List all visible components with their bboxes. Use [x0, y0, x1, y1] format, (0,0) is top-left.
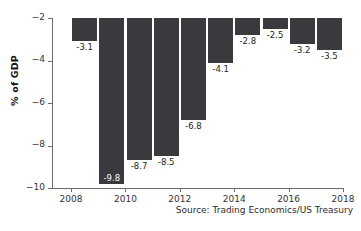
x-tick-label: 2014 — [223, 194, 246, 204]
y-tick: −2 — [48, 18, 52, 19]
bar — [127, 18, 152, 160]
x-tick — [180, 188, 181, 192]
x-tick — [125, 188, 126, 192]
y-tick: −10 — [48, 188, 52, 189]
x-tick — [71, 188, 72, 192]
bar-value-label: -4.1 — [212, 64, 229, 74]
x-tick — [234, 188, 235, 192]
y-axis-spine — [52, 18, 53, 188]
y-tick-label: −4 — [32, 54, 45, 64]
bar-value-label: -8.7 — [131, 161, 148, 171]
bar — [99, 18, 124, 184]
y-axis-title: % of GDP — [9, 41, 20, 121]
plot-area: −2−4−6−8−10 200820102012201420162018 -3.… — [52, 18, 343, 188]
bar-value-label: -3.2 — [294, 45, 311, 55]
x-tick — [343, 188, 344, 192]
y-tick-label: −6 — [32, 97, 45, 107]
bar-value-label: -8.5 — [158, 157, 175, 167]
bar-value-label: -9.8 — [104, 173, 121, 183]
bar-value-label: -3.5 — [321, 51, 338, 61]
y-tick: −8 — [48, 146, 52, 147]
x-tick-label: 2018 — [332, 194, 355, 204]
x-tick-label: 2012 — [168, 194, 191, 204]
bar — [317, 18, 342, 50]
bar — [208, 18, 233, 63]
bar — [181, 18, 206, 120]
x-tick-label: 2016 — [277, 194, 300, 204]
bar — [72, 18, 97, 41]
x-axis-spine — [52, 188, 343, 189]
y-tick: −4 — [48, 61, 52, 62]
bar-value-label: -2.5 — [267, 30, 284, 40]
bar-value-label: -6.8 — [185, 121, 202, 131]
bar-value-label: -2.8 — [240, 36, 257, 46]
y-tick: −6 — [48, 103, 52, 104]
bar — [235, 18, 260, 35]
x-tick — [289, 188, 290, 192]
y-tick-label: −8 — [32, 139, 45, 149]
bar-value-label: -3.1 — [76, 42, 93, 52]
bar — [263, 18, 288, 29]
y-tick-label: −2 — [32, 12, 45, 22]
source-note: Source: Trading Economics/US Treasury — [176, 205, 353, 215]
chart-figure: % of GDP −2−4−6−8−10 2008201020122014201… — [0, 0, 361, 231]
y-tick-label: −10 — [26, 182, 45, 192]
bar — [290, 18, 315, 44]
x-tick-label: 2010 — [114, 194, 137, 204]
x-tick-label: 2008 — [60, 194, 83, 204]
bar — [154, 18, 179, 156]
